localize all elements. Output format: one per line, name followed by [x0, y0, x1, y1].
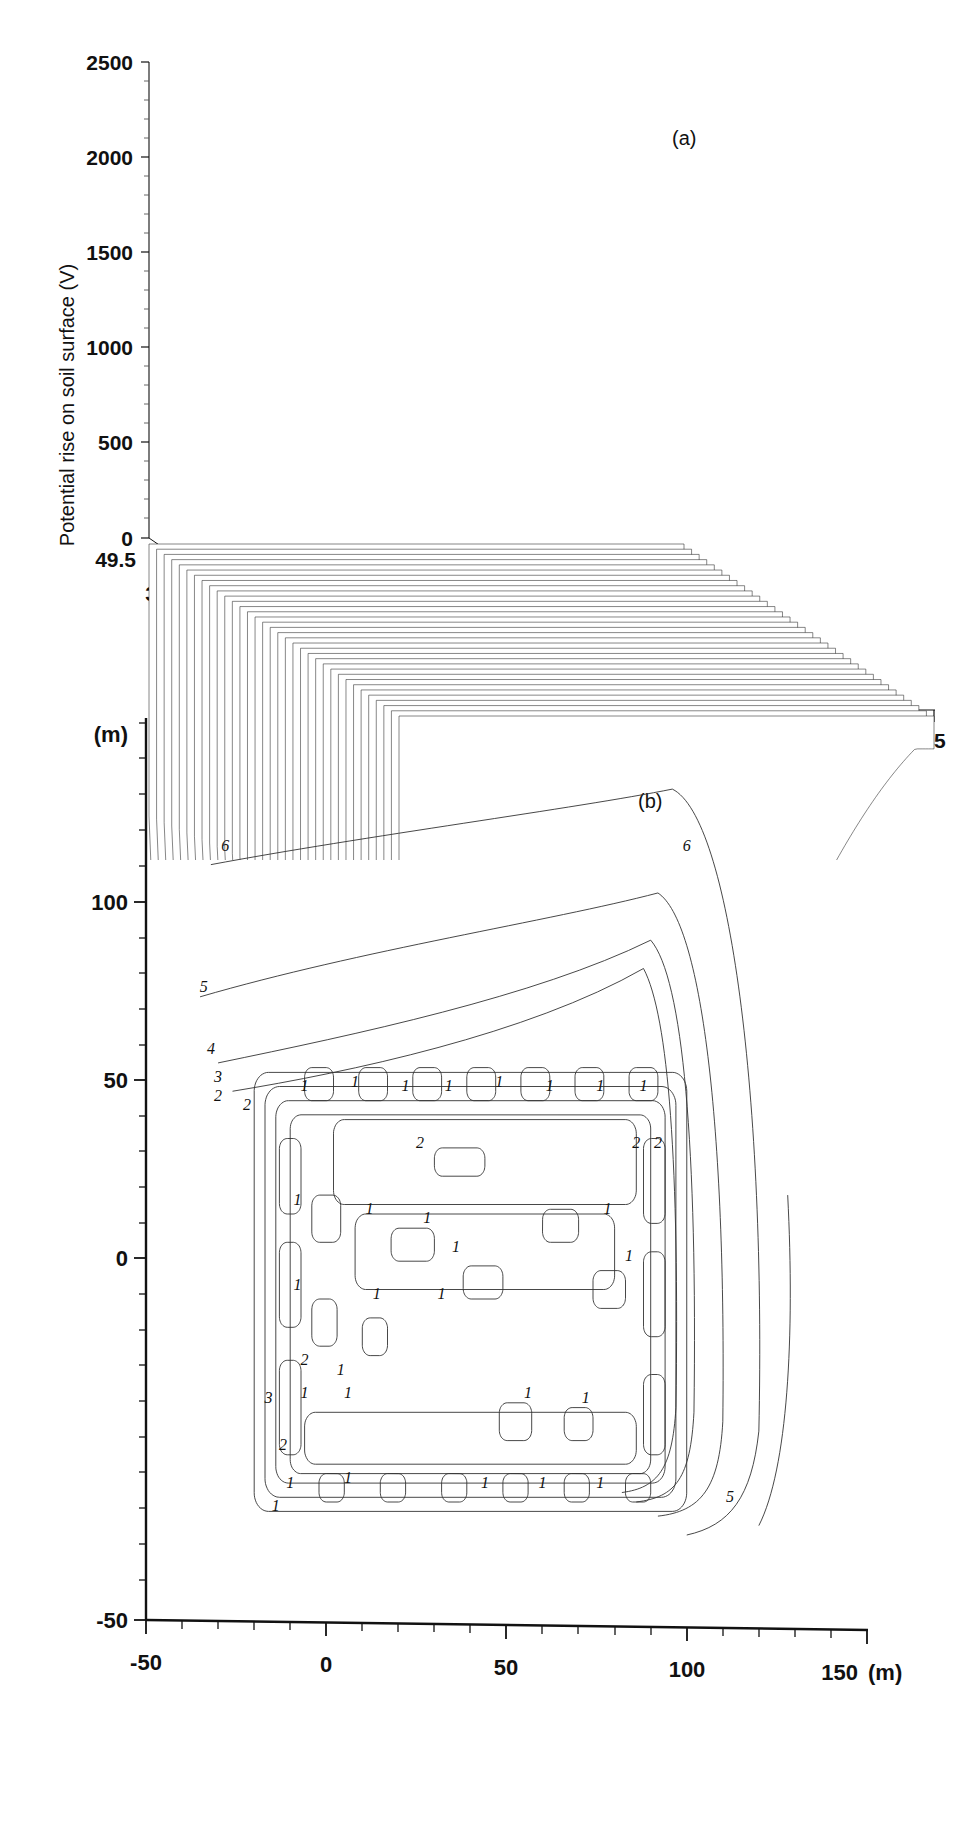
- contour-label: 1: [481, 1474, 489, 1491]
- contour-label: 1: [495, 1073, 503, 1090]
- panel-b-ytick--50: -50: [96, 1608, 128, 1633]
- contour-label: 3: [213, 1068, 222, 1085]
- contour-label: 1: [293, 1276, 301, 1293]
- panel-b-xtick-100: 100: [669, 1657, 706, 1682]
- panel-b-xtick-150: 150: [821, 1660, 858, 1685]
- contour-label: 2: [279, 1436, 287, 1453]
- contour-label: 2: [632, 1134, 640, 1151]
- contour-line: [233, 968, 677, 1492]
- panel-b-contour-set: [200, 789, 790, 1535]
- contour-line: [254, 1072, 687, 1511]
- panel-b-ytick-0: 0: [116, 1246, 128, 1271]
- contour-label: 1: [546, 1077, 554, 1094]
- contour-label: 2: [654, 1134, 662, 1151]
- contour-label: 6: [683, 837, 691, 854]
- panel-a-label: (a): [672, 127, 696, 149]
- contour-label: 1: [423, 1209, 431, 1226]
- panel-b-xtick-0: 0: [320, 1652, 332, 1677]
- panel-b-ytick-100: 100: [91, 890, 128, 915]
- contour-line: [355, 1214, 614, 1290]
- panel-a-y-axis: 2500 2000 1500 1000 500 0: [86, 51, 149, 550]
- panel-b-x-unit-label: (m): [868, 1660, 902, 1685]
- contour-label: 4: [207, 1040, 215, 1057]
- contour-line: [391, 1228, 434, 1261]
- contour-label: 1: [539, 1474, 547, 1491]
- contour-label: 1: [640, 1077, 648, 1094]
- contour-label: 2: [214, 1087, 222, 1104]
- contour-line: [312, 1299, 337, 1346]
- panel-a-ylabel: Potential rise on soil surface (V): [56, 264, 78, 546]
- contour-label: 2: [301, 1351, 309, 1368]
- panel-b-ytick-50: 50: [104, 1068, 128, 1093]
- figure-container: Potential rise on soil surface (V): [0, 0, 963, 1828]
- contour-label: 1: [337, 1361, 345, 1378]
- panel-b-x-axis: -50 0 50 100 150 (m): [130, 1620, 902, 1685]
- contour-label: 1: [596, 1474, 604, 1491]
- contour-label: 2: [416, 1134, 424, 1151]
- contour-line: [305, 1412, 637, 1464]
- contour-label: 2: [243, 1096, 251, 1113]
- contour-line: [644, 1139, 666, 1224]
- contour-label: 1: [625, 1247, 633, 1264]
- contour-label: 1: [351, 1073, 359, 1090]
- contour-label: 1: [402, 1077, 410, 1094]
- contour-label: 1: [452, 1238, 460, 1255]
- contour-label: 1: [438, 1285, 446, 1302]
- contour-label: 1: [603, 1200, 611, 1217]
- contour-label: 1: [301, 1077, 309, 1094]
- panel-a-ytick-2500: 2500: [86, 51, 133, 74]
- panel-b-xtick-50: 50: [494, 1655, 518, 1680]
- contour-label: 1: [286, 1474, 294, 1491]
- contour-label: 1: [344, 1469, 352, 1486]
- contour-line: [463, 1266, 503, 1299]
- contour-label: 1: [301, 1384, 309, 1401]
- panel-a-ytick-1500: 1500: [86, 241, 133, 264]
- panel-a-ytick-0: 0: [121, 527, 133, 550]
- contour-line: [290, 1115, 651, 1474]
- panel-b-y-unit-label: (m): [94, 722, 128, 747]
- panel-b-y-axis: (m) 100 50 0 -50: [91, 718, 146, 1633]
- contour-line: [276, 1101, 665, 1483]
- panel-b-xtick--50: -50: [130, 1650, 162, 1675]
- contour-label: 1: [366, 1200, 374, 1217]
- contour-label: 1: [344, 1384, 352, 1401]
- panel-a-ytick-2000: 2000: [86, 146, 133, 169]
- contour-label: 5: [200, 978, 208, 995]
- panel-b-chart: (b): [0, 718, 963, 1828]
- contour-label: 1: [272, 1497, 280, 1514]
- panel-a-ytick-1000: 1000: [86, 336, 133, 359]
- contour-line: [644, 1252, 666, 1337]
- contour-line: [312, 1195, 341, 1242]
- contour-line: [362, 1318, 387, 1356]
- contour-label: 6: [221, 837, 229, 854]
- contour-line: [218, 940, 694, 1502]
- contour-line: [644, 1375, 666, 1455]
- contour-label: 1: [596, 1077, 604, 1094]
- contour-label: 1: [445, 1077, 453, 1094]
- contour-label: 1: [373, 1285, 381, 1302]
- contour-label: 5: [726, 1488, 734, 1505]
- contour-label: 1: [582, 1389, 590, 1406]
- contour-line: [434, 1148, 485, 1176]
- contour-label: 1: [524, 1384, 532, 1401]
- contour-label: 3: [264, 1389, 273, 1406]
- panel-a-depthtick-49-5: 49.5: [95, 548, 136, 571]
- panel-a-ytick-500: 500: [98, 431, 133, 454]
- contour-line: [759, 1195, 790, 1525]
- contour-label: 1: [293, 1191, 301, 1208]
- contour-line: [499, 1403, 531, 1441]
